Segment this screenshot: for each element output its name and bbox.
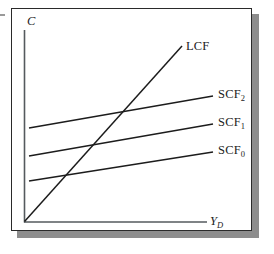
curve-label-scf2-text: SCF <box>218 87 241 101</box>
curve-label-scf1-text: SCF <box>218 115 241 129</box>
curve-label-scf1-subscript: 1 <box>241 121 245 131</box>
curve-label-scf2-subscript: 2 <box>241 93 245 103</box>
curve-label-scf0-text: SCF <box>218 143 241 157</box>
curve-scf2 <box>29 96 213 128</box>
x-axis-label: YD <box>210 215 223 228</box>
curve-label-scf1: SCF1 <box>218 116 245 129</box>
curve-label-scf2: SCF2 <box>218 88 245 101</box>
curve-label-lcf: LCF <box>186 40 210 53</box>
curve-label-scf0: SCF0 <box>218 144 245 157</box>
curve-label-scf0-subscript: 0 <box>241 149 245 159</box>
y-axis-label: C <box>27 15 35 28</box>
curve-scf0 <box>29 152 213 181</box>
figure-canvas: C YD LCF SCF2 SCF1 SCF0 <box>0 0 274 254</box>
curve-scf1 <box>29 124 213 156</box>
x-axis-label-subscript: D <box>217 220 223 230</box>
x-axis-label-main: Y <box>210 214 217 228</box>
